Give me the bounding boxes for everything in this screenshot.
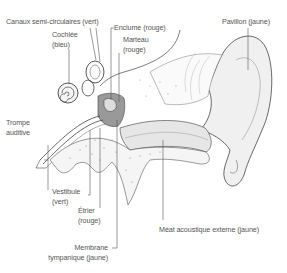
label-meat-acoustique-externe: Méat acoustique externe (jaune) [159, 225, 259, 235]
label-vestibule: Vestibule (vert) [52, 187, 80, 206]
label-membrane-tympanique: Membrane tympanique (jaune) [36, 243, 108, 262]
label-pavillon: Pavillon (jaune) [222, 17, 270, 27]
label-etrier: Étrier (rouge) [78, 206, 100, 225]
label-trompe-line2: auditive [6, 128, 30, 138]
label-canaux-semi-circulaires: Canaux semi-circulaires (vert) [6, 17, 98, 27]
label-trompe-line1: Trompe [6, 118, 30, 128]
label-enclume: Enclume (rouge) [114, 23, 166, 33]
label-cochlee-line1: Cochlée [52, 30, 78, 40]
label-vestibule-line1: Vestibule [52, 187, 80, 197]
label-marteau-line2: (rouge) [123, 45, 149, 55]
label-membrane-line1: Membrane [36, 243, 108, 253]
label-etrier-line1: Étrier [78, 206, 100, 216]
label-marteau-line1: Marteau [123, 35, 149, 45]
label-vestibule-line2: (vert) [52, 197, 80, 207]
label-cochlee: Cochlée (bleu) [52, 30, 78, 49]
label-etrier-line2: (rouge) [78, 216, 100, 226]
label-cochlee-line2: (bleu) [52, 40, 78, 50]
label-membrane-line2: tympanique (jaune) [36, 253, 108, 263]
label-trompe-auditive: Trompe auditive [6, 118, 30, 137]
label-marteau: Marteau (rouge) [123, 35, 149, 54]
